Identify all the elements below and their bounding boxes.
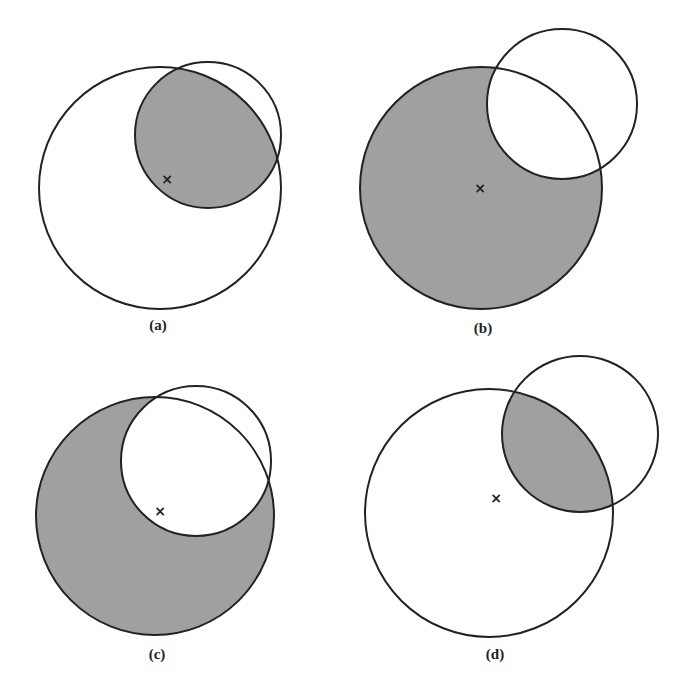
panel-label: (c) — [149, 646, 166, 663]
panel-d: ×(d) — [365, 356, 658, 663]
center-marker-icon: × — [161, 171, 173, 187]
panel-c: ×(c) — [36, 386, 274, 663]
center-marker-icon: × — [154, 503, 166, 519]
panel-b: ×(b) — [360, 29, 637, 337]
panel-label: (d) — [486, 646, 504, 663]
panel-a: ×(a) — [39, 62, 281, 334]
venn-diagram-figure: ×(a) ×(b) ×(c) ×(d) — [0, 0, 687, 697]
panel-label: (a) — [149, 317, 167, 334]
center-marker-icon: × — [490, 490, 502, 506]
panel-label: (b) — [474, 320, 492, 337]
center-marker-icon: × — [474, 180, 486, 196]
